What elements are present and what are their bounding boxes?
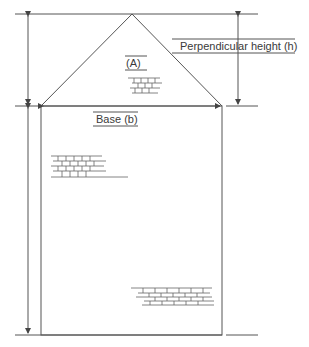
perpendicular-height-label: Perpendicular height (h) — [180, 40, 297, 52]
base-label: Base (b) — [96, 113, 138, 125]
gable-wall-diagram: (A) Perpendicular height (h) Base (b) — [0, 0, 309, 347]
diagram-graphics — [0, 0, 309, 347]
area-a-label: (A) — [126, 57, 141, 69]
brick-pattern-icon — [131, 288, 214, 305]
brick-pattern-icon — [51, 156, 128, 177]
brick-pattern-icon — [128, 78, 162, 93]
